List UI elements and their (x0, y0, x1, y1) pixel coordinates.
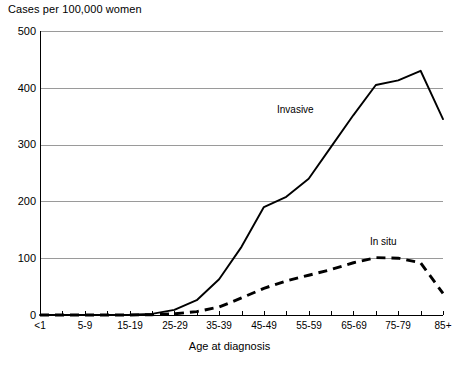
x-tick-label-1: 5-9 (62, 320, 108, 331)
chart-figure: Cases per 100,000 women 500 400 300 200 … (0, 0, 459, 367)
x-tick-label-6: 55-59 (286, 320, 332, 331)
series-annotation-in-situ: In situ (370, 236, 397, 247)
x-tick-label-0: <1 (17, 320, 63, 331)
axis-lines (40, 31, 443, 316)
plot-area (0, 0, 459, 367)
x-tick-label-3: 25-29 (152, 320, 198, 331)
gridlines (40, 32, 443, 259)
x-tick-label-2: 15-19 (107, 320, 153, 331)
x-tick-label-9: 85+ (420, 320, 459, 331)
x-tick-label-8: 75-79 (375, 320, 421, 331)
x-axis-title: Age at diagnosis (0, 340, 459, 353)
series-line-in-situ (40, 258, 443, 315)
series-line-invasive (40, 71, 443, 315)
series-annotation-invasive: Invasive (277, 104, 314, 115)
x-tick-label-4: 35-39 (196, 320, 242, 331)
x-tick-label-5: 45-49 (241, 320, 287, 331)
x-tick-label-7: 65-69 (331, 320, 377, 331)
